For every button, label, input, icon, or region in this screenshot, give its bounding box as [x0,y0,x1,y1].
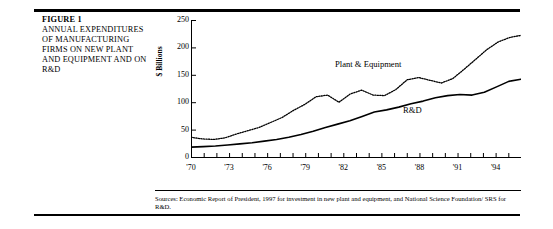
y-axis-tick-label: 250 [167,16,189,24]
y-axis-tick-label: 0 [167,153,189,161]
x-axis-tick-labels: '70'73'76'79'82'85'88'91'94 [191,164,521,180]
x-axis-tick-label: '73 [224,164,233,172]
y-axis-label: $ Billions [155,65,164,77]
x-axis-tick-label: '94 [491,164,500,172]
source-note: Sources: Economic Report of President, 1… [155,195,521,211]
x-axis-tick-label: '76 [262,164,271,172]
x-axis-tick-label: '82 [339,164,348,172]
figure-title: ANNUAL EXPENDITURES OF MANUFACTURING FIR… [42,25,152,75]
y-axis-tick-label: 100 [167,98,189,106]
source-line-1: Sources: Economic Report of President, 1… [155,195,483,202]
chart-figure: $ Billions 050100150200250 '70'73'76'79'… [155,14,521,214]
series-annotation-rd: R&D [403,106,422,115]
y-axis-tick-label: 50 [167,126,189,134]
x-axis-tick-label: '91 [453,164,462,172]
top-rule [34,9,520,12]
x-axis-tick-label: '70 [186,164,195,172]
series-line-r-d [191,79,521,147]
y-axis-tick-label: 150 [167,71,189,79]
y-axis-tick-labels: 050100150200250 [165,14,189,179]
source-rule [155,190,521,191]
x-axis-tick-label: '88 [415,164,424,172]
x-axis-tick-label: '85 [377,164,386,172]
x-axis-tick-label: '79 [300,164,309,172]
series-line-plant-equipment [191,35,521,139]
plot-area: $ Billions 050100150200250 '70'73'76'79'… [155,14,521,179]
y-axis-tick-label: 200 [167,43,189,51]
figure-label: FIGURE 1 [42,15,152,25]
plot-svg [191,14,521,179]
figure-caption: FIGURE 1 ANNUAL EXPENDITURES OF MANUFACT… [42,15,152,76]
figure-page: FIGURE 1 ANNUAL EXPENDITURES OF MANUFACT… [0,0,553,229]
series-annotation-plant-equipment: Plant & Equipment [335,60,401,69]
bottom-rule [34,214,520,216]
